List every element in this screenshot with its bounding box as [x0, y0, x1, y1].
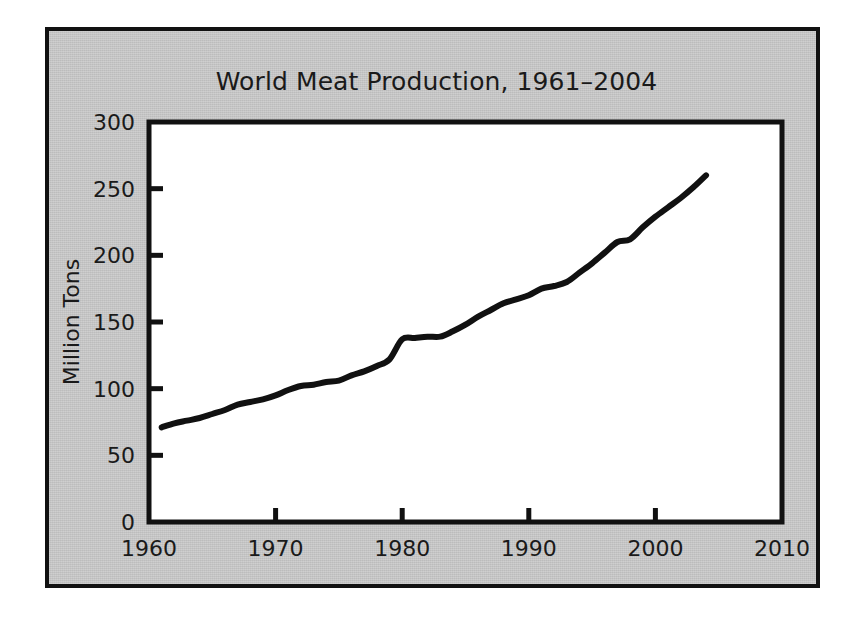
y-axis-title: Million Tons — [59, 259, 84, 385]
x-tick-label-1960: 1960 — [121, 536, 177, 561]
x-tick-label-2000: 2000 — [627, 536, 683, 561]
y-tick-label-150: 150 — [93, 310, 135, 335]
y-tick-label-50: 50 — [107, 443, 135, 468]
x-tick-label-1970: 1970 — [248, 536, 304, 561]
y-tick-label-300: 300 — [93, 110, 135, 135]
x-tick-label-1980: 1980 — [374, 536, 430, 561]
y-axis-tick-labels: 050100150200250300 — [93, 110, 135, 535]
y-tick-label-250: 250 — [93, 177, 135, 202]
chart-title: World Meat Production, 1961–2004 — [49, 67, 824, 96]
y-tick-label-200: 200 — [93, 243, 135, 268]
x-axis-tick-labels: 196019701980199020002010 — [121, 536, 810, 561]
y-tick-label-100: 100 — [93, 377, 135, 402]
figure-canvas: World Meat Production, 1961–2004 0501001… — [0, 0, 861, 620]
x-tick-label-1990: 1990 — [501, 536, 557, 561]
x-tick-label-2010: 2010 — [754, 536, 810, 561]
chart-panel: World Meat Production, 1961–2004 0501001… — [45, 27, 820, 588]
y-tick-label-0: 0 — [121, 510, 135, 535]
plot-area: 050100150200250300 196019701980199020002… — [49, 31, 824, 592]
